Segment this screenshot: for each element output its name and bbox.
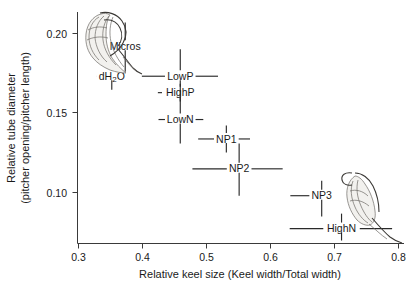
x-tick-label-03: 0.3 (71, 251, 86, 263)
x-tick-label-04: 0.4 (135, 251, 150, 263)
data-point: HighN (290, 214, 392, 241)
y-tick-label-020: 0.20 (47, 28, 68, 40)
data-point-label-np2: NP2 (229, 162, 250, 174)
x-tick-label-06: 0.6 (263, 251, 278, 263)
y-tick-label-010: 0.10 (47, 187, 68, 199)
y-axis-ticks: 0.20 0.15 0.10 (47, 28, 78, 199)
data-point-label-np3: NP3 (311, 189, 332, 201)
x-axis-title: Relative keel size (Keel width/Total wid… (139, 268, 341, 280)
data-point-label-micros: Micros (110, 40, 141, 52)
data-series-layer: MicrosdH2OLowPHighPLowNNP1NP2NP3HighN (96, 22, 392, 240)
plot-canvas: 0.20 0.15 0.10 0.3 0.4 0.5 0.6 0.7 0.8 R… (0, 0, 416, 287)
data-point: NP3 (290, 181, 332, 217)
x-tick-label-05: 0.5 (199, 251, 214, 263)
data-point: NP1 (198, 126, 250, 153)
y-axis-title-line1: Relative tube diameter (5, 73, 17, 183)
data-point: HighP (158, 84, 195, 102)
x-axis-ticks: 0.3 0.4 0.5 0.6 0.7 0.8 (71, 244, 406, 264)
x-tick-label-07: 0.7 (327, 251, 342, 263)
data-point-label-lown: LowN (167, 113, 194, 125)
data-point-label-np1: NP1 (216, 133, 237, 145)
data-point-label-highn: HighN (327, 222, 356, 234)
x-tick-label-08: 0.8 (391, 251, 406, 263)
y-tick-label-015: 0.15 (47, 107, 68, 119)
data-point: LowN (159, 94, 204, 143)
y-axis-title-line2: (pitcher opening/pitcher length) (19, 52, 31, 204)
data-point: NP2 (192, 143, 282, 195)
data-point-label-lowp: LowP (167, 70, 193, 82)
scatter-plot-figure: 0.20 0.15 0.10 0.3 0.4 0.5 0.6 0.7 0.8 R… (0, 0, 416, 287)
